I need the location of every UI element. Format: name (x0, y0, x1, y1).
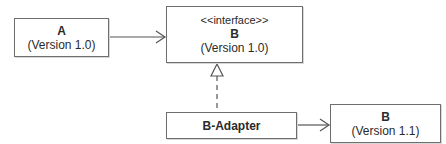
b-adapter-box: B-Adapter (166, 112, 297, 139)
interface-b-box: <<interface>> B (Version 1.0) (166, 6, 303, 63)
class-b11-box: B (Version 1.1) (330, 104, 441, 143)
realization-triangle (211, 64, 223, 76)
class-a-version: (Version 1.0) (27, 38, 95, 52)
class-b11-name: B (381, 110, 390, 124)
class-a-name: A (57, 24, 66, 38)
interface-b-stereotype: <<interface>> (201, 14, 269, 27)
interface-b-version: (Version 1.0) (200, 41, 268, 55)
class-a-box: A (Version 1.0) (14, 18, 109, 57)
class-b11-version: (Version 1.1) (351, 124, 419, 138)
b-adapter-name: B-Adapter (202, 119, 260, 133)
interface-b-name: B (230, 27, 239, 41)
